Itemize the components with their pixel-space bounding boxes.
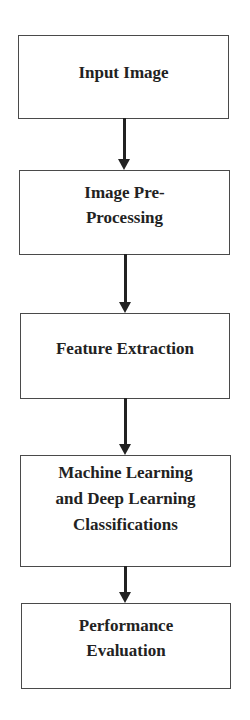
node-label: Feature Extraction xyxy=(21,336,229,361)
arrowhead xyxy=(119,592,131,603)
arrow-down-icon xyxy=(119,566,131,603)
arrow-shaft xyxy=(124,566,127,593)
node-label: Input Image xyxy=(19,60,228,85)
arrow-down-icon xyxy=(119,254,131,313)
arrow-shaft xyxy=(124,398,127,445)
arrow-down-icon xyxy=(119,398,131,455)
node-image-pre-processing: Image Pre- Processing xyxy=(19,170,230,255)
arrow-down-icon xyxy=(118,118,130,170)
arrowhead xyxy=(118,159,130,170)
node-performance-evaluation: Performance Evaluation xyxy=(21,603,231,689)
arrowhead xyxy=(119,444,131,455)
arrow-shaft xyxy=(123,118,126,160)
arrowhead xyxy=(119,302,131,313)
node-feature-extraction: Feature Extraction xyxy=(20,313,230,399)
node-input-image: Input Image xyxy=(18,35,229,119)
node-label: Image Pre- Processing xyxy=(20,180,229,230)
node-label: Performance Evaluation xyxy=(22,613,230,663)
arrow-shaft xyxy=(124,254,127,303)
node-label: Machine Learning and Deep Learning Class… xyxy=(21,460,230,538)
node-ml-dl-classifications: Machine Learning and Deep Learning Class… xyxy=(20,455,231,567)
